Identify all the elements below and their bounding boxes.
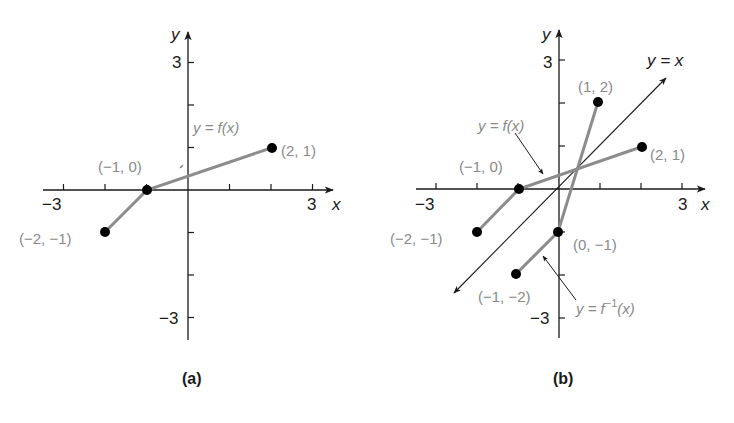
- graph-b: −3 3 x 3 −3 y y = x (−2, −1) (−1, 0) (2,…: [390, 25, 710, 387]
- y-tick-label-3-b: 3: [543, 53, 552, 72]
- point-m2-m1-a: [100, 227, 110, 237]
- label-m1-0-b: (−1, 0): [459, 158, 503, 175]
- label-0-m1-b: (0, −1): [573, 236, 617, 253]
- label-1-2-b: (1, 2): [578, 78, 613, 95]
- point-m1-m2-b: [511, 269, 521, 279]
- point-2-1-b: [637, 142, 647, 152]
- caption-b: (b): [553, 370, 573, 387]
- label-2-1-b: (2, 1): [650, 146, 685, 163]
- x-tick-label-neg3-b: −3: [415, 195, 434, 214]
- identity-label-b: y = x: [646, 51, 684, 70]
- graph-a: −3 3 x 3 −3 y (−2, −1) (−1, 0) (2, 1) y …: [19, 25, 341, 387]
- y-tick-label-neg3-a: −3: [159, 309, 178, 328]
- label-m1-m2-b: (−1, −2): [478, 288, 531, 305]
- point-m2-m1-b: [472, 227, 482, 237]
- label-m1-0-a: (−1, 0): [98, 158, 142, 175]
- f-label-a: y = f(x): [192, 119, 239, 136]
- y-axis-label-a: y: [170, 25, 181, 44]
- f-annotation-arrow-b: [515, 133, 543, 174]
- y-axis-label-b: y: [541, 25, 552, 44]
- finv-label-sup: −1: [605, 297, 618, 309]
- finv-label-suffix: (x): [617, 300, 635, 317]
- point-m1-0-a: [142, 185, 152, 195]
- finv-label-b: y = f−1(x): [575, 297, 635, 317]
- stray-mark-a: [180, 165, 183, 168]
- label-2-1-a: (2, 1): [281, 142, 316, 159]
- y-tick-label-3-a: 3: [172, 53, 181, 72]
- x-axis-label-b: x: [700, 195, 710, 214]
- point-2-1-a: [267, 143, 277, 153]
- finv-label-prefix: y = f: [575, 300, 607, 317]
- x-tick-label-neg3-a: −3: [42, 195, 61, 214]
- figure-canvas: −3 3 x 3 −3 y (−2, −1) (−1, 0) (2, 1) y …: [0, 0, 734, 423]
- identity-line-b: [454, 78, 666, 293]
- caption-a: (a): [182, 370, 202, 387]
- x-axis-label-a: x: [331, 195, 341, 214]
- f-label-b: y = f(x): [477, 117, 524, 134]
- x-tick-label-3-a: 3: [307, 195, 316, 214]
- y-tick-label-neg3-b: −3: [530, 309, 549, 328]
- point-m1-0-b: [514, 184, 524, 194]
- point-1-2-b: [593, 97, 603, 107]
- point-0-m1-b: [553, 227, 563, 237]
- label-m2-m1-b: (−2, −1): [390, 230, 443, 247]
- x-tick-label-3-b: 3: [678, 195, 687, 214]
- label-m2-m1-a: (−2, −1): [19, 230, 72, 247]
